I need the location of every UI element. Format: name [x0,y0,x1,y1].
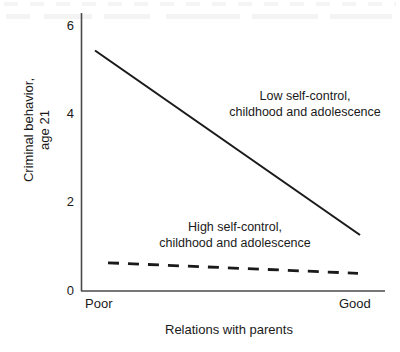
annotation-high-self-control-line-1: High self-control, [188,220,282,234]
series-line-high-self-control [108,263,358,274]
y-axis-title-line-1: Criminal behavior, [21,78,36,182]
chart-figure: 6 4 2 0 Poor Good Relations with parents… [0,0,400,352]
annotation-low-self-control-line-1: Low self-control, [259,89,350,103]
y-axis-title-line-2: age 21 [37,110,52,150]
y-tick-label-2: 2 [56,194,74,209]
y-tick-label-4: 4 [56,106,74,121]
annotation-low-self-control-line-2: childhood and adolescence [229,105,381,119]
y-tick-label-0: 0 [56,283,74,298]
annotation-high-self-control-line-2: childhood and adolescence [159,236,311,250]
y-axis-title: Criminal behavior, age 21 [21,45,54,215]
x-axis-title: Relations with parents [165,322,293,337]
annotation-high-self-control: High self-control, childhood and adolesc… [145,219,325,252]
x-tick-label-poor: Poor [85,296,112,311]
annotation-low-self-control: Low self-control, childhood and adolesce… [215,88,395,121]
series-line-low-self-control [95,51,360,236]
y-tick-label-6: 6 [56,18,74,33]
x-tick-label-good: Good [339,296,371,311]
